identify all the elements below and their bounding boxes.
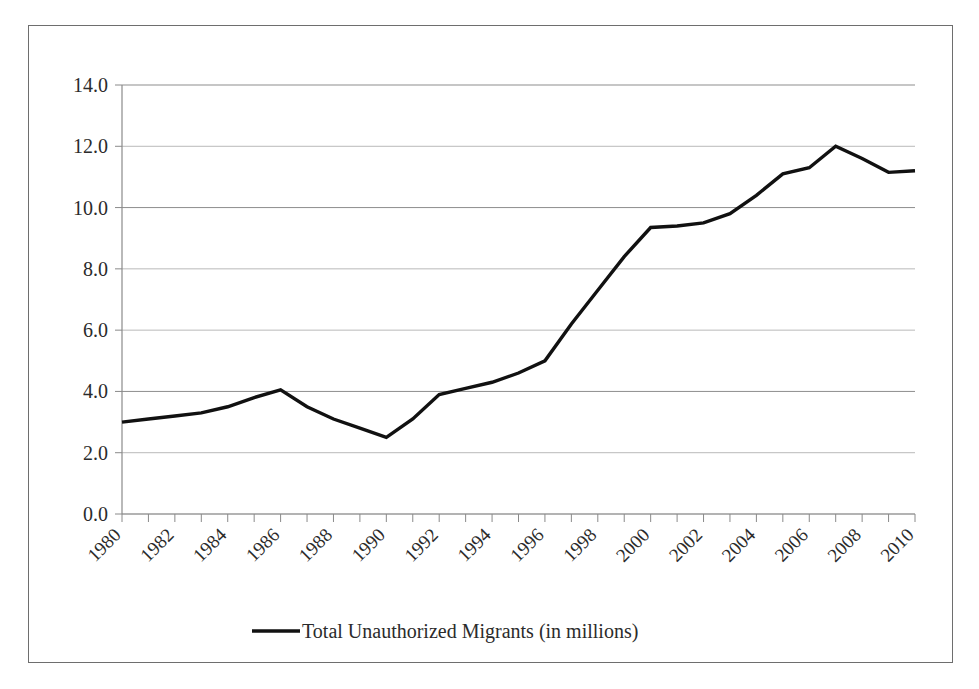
figure-root: 0.02.04.06.08.010.012.014.0 198019821984… — [0, 0, 979, 689]
chart-outer-border — [28, 25, 953, 663]
